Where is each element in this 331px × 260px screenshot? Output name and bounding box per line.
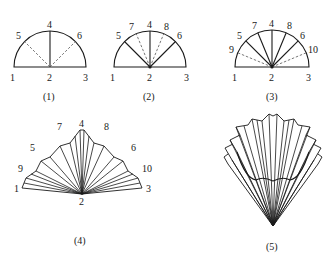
point-label-9: 9: [18, 163, 23, 174]
point-label-6: 6: [300, 30, 305, 41]
fold-line-2-6: [150, 42, 176, 68]
point-label-2: 2: [47, 72, 52, 83]
fold-line-2-5: [125, 42, 151, 68]
figure-4: 1 2 3 4 5 6 7 8 9 10 (4): [14, 118, 152, 247]
point-label-2: 2: [79, 196, 84, 207]
caption-2: (2): [143, 91, 155, 103]
figure-3: 1 2 3 4 5 6 7 8 9 10 (3): [229, 18, 318, 103]
figure-1: 1 2 3 4 5 6 (1): [10, 19, 88, 103]
point-label-5: 5: [116, 30, 121, 41]
point-label-1: 1: [232, 72, 237, 83]
point-label-8: 8: [287, 20, 292, 31]
point-label-9: 9: [229, 44, 234, 55]
dashed-fold-2-5: [25, 42, 51, 68]
point-label-7: 7: [57, 121, 62, 132]
caption-5: (5): [266, 241, 278, 253]
folding-diagram: 1 2 3 4 5 6 (1) 1 2 3 4 5 6 7 8 (2): [0, 0, 331, 260]
point-label-8: 8: [104, 121, 109, 132]
dashed-fold-2-7: [136, 34, 150, 67]
fold-line-2-6: [272, 41, 298, 67]
point-label-3: 3: [146, 183, 151, 194]
point-label-5: 5: [30, 142, 35, 153]
point-label-3: 3: [306, 72, 311, 83]
point-label-8: 8: [164, 21, 169, 32]
point-label-1: 1: [110, 72, 115, 83]
point-label-5: 5: [16, 30, 21, 41]
point-label-2: 2: [269, 72, 274, 83]
point-label-10: 10: [142, 163, 152, 174]
caption-3: (3): [266, 91, 278, 103]
point-label-3: 3: [184, 72, 189, 83]
point-label-7: 7: [252, 20, 257, 31]
center-point: [148, 65, 151, 68]
fold-line-2-5: [246, 41, 272, 67]
caption-4: (4): [74, 235, 86, 247]
figure-2: 1 2 3 4 5 6 7 8 (2): [110, 19, 189, 103]
point-label-1: 1: [14, 183, 19, 194]
figure-5: (5): [224, 114, 322, 253]
point-label-5: 5: [237, 30, 242, 41]
point-label-6: 6: [131, 142, 136, 153]
point-label-3: 3: [83, 72, 88, 83]
center-point: [270, 65, 273, 68]
point-label-10: 10: [308, 44, 318, 55]
point-label-4: 4: [79, 118, 84, 129]
caption-1: (1): [43, 91, 55, 103]
point-label-4: 4: [47, 19, 52, 30]
dashed-fold-2-8: [150, 34, 164, 67]
dashed-fold-2-6: [50, 42, 76, 68]
point-label-1: 1: [10, 72, 15, 83]
point-label-4: 4: [269, 18, 274, 29]
point-label-7: 7: [129, 21, 134, 32]
point-label-6: 6: [77, 30, 82, 41]
point-label-2: 2: [147, 72, 152, 83]
point-label-4: 4: [147, 19, 152, 30]
point-label-6: 6: [177, 30, 182, 41]
